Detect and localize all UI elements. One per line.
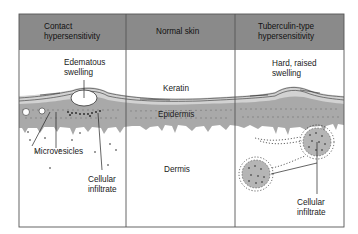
header-normal: Normal skin — [156, 14, 199, 50]
label-epidermis: Epidermis — [158, 110, 194, 120]
label-edematous-swelling: Edematous swelling — [64, 58, 105, 78]
label-keratin: Keratin — [163, 84, 189, 94]
label-cellular-infiltrate-tuberculin: Cellular infiltrate — [297, 198, 326, 218]
header-tuberculin: Tuberculin-type hypersensitivity — [258, 14, 314, 50]
label-hard-raised-swelling: Hard, raised swelling — [272, 59, 317, 79]
tuberculin-infiltrate — [239, 125, 334, 191]
label-microvesicles: Microvesicles — [34, 147, 83, 157]
header-contact: Contact hypersensitivity — [44, 14, 100, 50]
label-dermis: Dermis — [164, 165, 190, 175]
microvesicle — [23, 109, 30, 116]
microvesicle — [39, 108, 45, 114]
label-cellular-infiltrate-contact: Cellular infiltrate — [88, 175, 117, 195]
